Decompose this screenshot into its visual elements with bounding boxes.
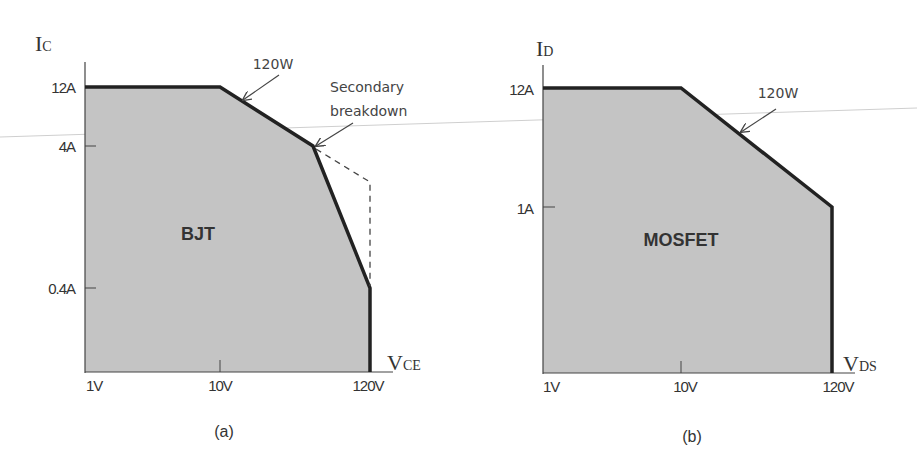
bjt-ytick-04a: 0.4A — [48, 280, 76, 297]
bjt-xtick-1v: 1V — [86, 377, 103, 394]
bjt-caption: (a) — [214, 423, 234, 440]
mosfet-chart: ID VDS 12A 1A 1V 10V 120V 120W MOSFET (b… — [509, 36, 877, 445]
bjt-sb-label-line1: Secondary — [330, 79, 404, 95]
bjt-soa-region — [85, 87, 370, 372]
bjt-120w-label: 120W — [253, 56, 294, 72]
mosfet-xtick-1v: 1V — [543, 378, 560, 395]
mosfet-120w-label: 120W — [758, 85, 799, 101]
mosfet-120w-arrow — [741, 109, 776, 132]
mosfet-ytick-1a: 1A — [517, 200, 534, 217]
mosfet-ytick-12a: 12A — [509, 81, 534, 98]
bjt-ytick-4a: 4A — [59, 138, 76, 155]
mosfet-x-axis-label: VDS — [843, 351, 877, 376]
bjt-region-label: BJT — [181, 224, 215, 244]
soa-diagram: IC VCE 12A 4A 0.4A 1V 10V 120V 120W Seco… — [0, 0, 917, 470]
bjt-120w-arrow — [243, 75, 279, 100]
bjt-chart: IC VCE 12A 4A 0.4A 1V 10V 120V 120W Seco… — [35, 31, 421, 440]
bjt-xtick-10v: 10V — [208, 377, 233, 394]
bjt-sb-label-line2: breakdown — [330, 103, 407, 119]
mosfet-y-axis-label: ID — [536, 36, 553, 61]
mosfet-region-label: MOSFET — [644, 230, 719, 250]
mosfet-xtick-120v: 120V — [822, 378, 854, 395]
mosfet-xtick-10v: 10V — [673, 378, 698, 395]
bjt-xtick-120v: 120V — [352, 377, 384, 394]
bjt-ytick-12a: 12A — [51, 79, 76, 96]
mosfet-caption: (b) — [682, 428, 702, 445]
bjt-y-axis-label: IC — [35, 31, 52, 56]
bjt-x-axis-label: VCE — [387, 350, 421, 375]
